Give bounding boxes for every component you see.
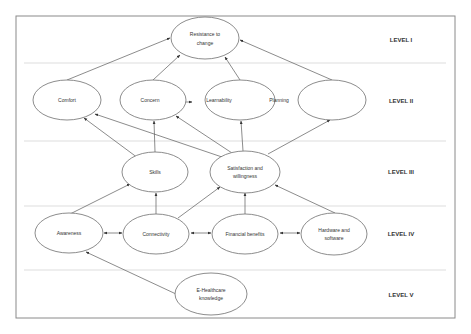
node-financial-benefits: Financial benefits bbox=[212, 214, 278, 254]
level-label-1: LEVEL I bbox=[390, 37, 413, 43]
node-label: knowledge bbox=[199, 295, 223, 301]
level-label-3: LEVEL III bbox=[388, 169, 414, 175]
node-label: Planning bbox=[269, 97, 289, 103]
edge-ehealth-awareness bbox=[86, 252, 176, 294]
node-concern: Concern bbox=[120, 80, 186, 120]
node-awareness: Awareness bbox=[35, 213, 103, 253]
edge-skills-concern bbox=[154, 121, 155, 152]
edge-satisfaction-learnability bbox=[241, 121, 243, 151]
node-label: Concern bbox=[141, 97, 160, 103]
edges bbox=[67, 38, 335, 294]
node-empty bbox=[298, 80, 366, 120]
node-label: Awareness bbox=[57, 230, 82, 236]
node-label: Comfort bbox=[58, 97, 76, 103]
node-learnability: Learnability bbox=[205, 80, 275, 120]
level-labels: LEVEL I LEVEL II LEVEL III LEVEL IV LEVE… bbox=[388, 37, 415, 298]
edge-hardware-satisfaction bbox=[275, 185, 335, 213]
edge-concern-resistance bbox=[153, 55, 180, 80]
node-planning: Planning bbox=[269, 97, 289, 103]
node-skills: Skills bbox=[122, 152, 188, 192]
node-e-healthcare-knowledge: E-Healthcare knowledge bbox=[175, 273, 247, 315]
node-label: Learnability bbox=[206, 97, 232, 103]
node-connectivity: Connectivity bbox=[123, 214, 189, 254]
node-label: E-Healthcare bbox=[196, 287, 225, 293]
level-label-2: LEVEL II bbox=[389, 98, 414, 104]
edge-satisfaction-concern bbox=[176, 116, 232, 153]
node-satisfaction-and-willingness: Satisfaction and willingness bbox=[210, 151, 280, 193]
node-label: Hardware and bbox=[318, 227, 350, 233]
edge-skills-comfort bbox=[84, 118, 138, 158]
node-label: software bbox=[325, 235, 344, 241]
edge-connectivity-satisfaction bbox=[178, 187, 220, 218]
node-label: Connectivity bbox=[142, 231, 170, 237]
edge-satisfaction-comfort bbox=[95, 114, 222, 157]
node-label: Resistance to bbox=[190, 31, 221, 37]
hierarchy-diagram: Resistance to change Comfort Concern Lea… bbox=[0, 0, 471, 334]
edge-learnability-resistance bbox=[225, 57, 240, 80]
node-label: Satisfaction and bbox=[227, 165, 263, 171]
level-label-5: LEVEL V bbox=[389, 292, 414, 298]
node-label: Skills bbox=[149, 169, 161, 175]
node-hardware-and-software: Hardware and software bbox=[301, 213, 367, 255]
edge-satisfaction-empty bbox=[268, 120, 330, 154]
node-label: Financial benefits bbox=[226, 231, 265, 237]
node-resistance-to-change: Resistance to change bbox=[171, 17, 239, 59]
node-comfort: Comfort bbox=[33, 80, 101, 120]
edge-awareness-skills bbox=[70, 184, 130, 214]
node-label: change bbox=[197, 40, 214, 46]
level-label-4: LEVEL IV bbox=[388, 231, 415, 237]
edge-comfort-resistance bbox=[67, 38, 170, 80]
node-label: willingness bbox=[233, 173, 258, 179]
edge-empty-resistance bbox=[240, 40, 332, 80]
